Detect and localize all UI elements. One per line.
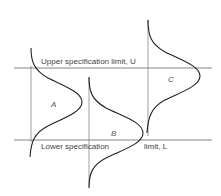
upper-limit-label: Upper specification limit, U [41,57,136,66]
specification-limits-diagram: Upper specification limit, U Lower speci… [0,0,221,196]
curve-b-label: B [111,129,117,138]
lower-limit-label-left: Lower specification [41,142,109,151]
curve-a-label: A [50,100,56,109]
curve-c-label: C [168,75,174,84]
lower-limit-label-right: limit, L [144,142,168,151]
